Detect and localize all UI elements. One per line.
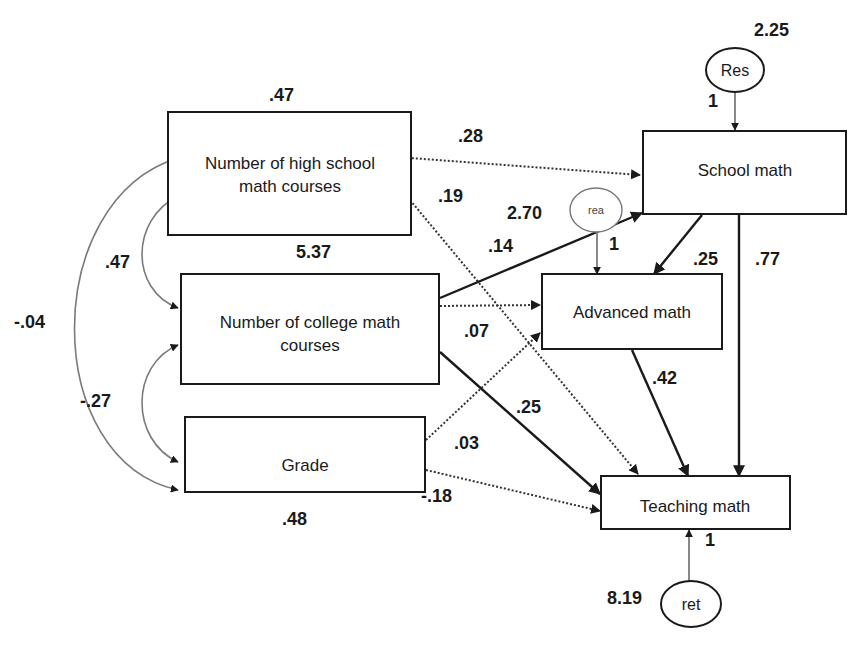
coef-college-to-advanced: .07 (464, 321, 489, 341)
coef-hs-to-teaching: .19 (438, 186, 463, 206)
coef-grade-to-advanced: .03 (454, 433, 479, 453)
hs-intercept: 5.37 (296, 242, 331, 262)
hs-variance: .47 (269, 85, 294, 105)
coef-college-to-school: .14 (488, 236, 513, 256)
res-variance: 2.25 (754, 20, 789, 40)
advanced-math-label: Advanced math (573, 303, 691, 322)
path-diagram: Number of high school math courses Numbe… (0, 0, 859, 650)
hs-courses-label-1: Number of high school (205, 154, 375, 173)
box-hs-courses: Number of high school math courses (168, 112, 411, 235)
college-courses-label-1: Number of college math (220, 313, 400, 332)
school-math-label: School math (698, 161, 793, 180)
path-grade-to-teaching (426, 470, 600, 511)
grade-variance: .48 (282, 509, 307, 529)
ret-label: ret (682, 596, 701, 613)
path-college-to-teaching (440, 352, 600, 494)
box-college-courses: Number of college math courses (181, 274, 439, 384)
coef-school-to-teaching: .77 (755, 249, 780, 269)
teaching-math-label: Teaching math (640, 497, 751, 516)
box-teaching-math: Teaching math (601, 476, 790, 529)
cov-college-grade-arc (142, 345, 178, 462)
coef-school-to-advanced: .25 (693, 249, 718, 269)
residual-rea: rea (570, 188, 622, 232)
ret-loading: 1 (705, 530, 715, 550)
college-courses-label-2: courses (280, 336, 340, 355)
coef-grade-to-teaching: -.18 (421, 486, 452, 506)
box-grade: Grade (185, 417, 425, 492)
path-grade-to-advanced (426, 333, 540, 440)
residual-res: Res (706, 48, 764, 92)
rea-loading: 1 (609, 234, 619, 254)
grade-label: Grade (281, 456, 328, 475)
coef-advanced-to-teaching: .42 (652, 368, 677, 388)
coef-college-to-teaching: .25 (516, 397, 541, 417)
res-loading: 1 (708, 91, 718, 111)
cov-hs-college: .47 (105, 252, 130, 272)
box-school-math: School math (643, 131, 846, 214)
cov-hs-grade: -.04 (14, 312, 45, 332)
res-label: Res (721, 62, 749, 79)
covariance-arcs (75, 158, 179, 490)
residual-ret: ret (661, 581, 721, 627)
path-college-to-advanced (440, 305, 540, 306)
rea-label: rea (588, 204, 605, 216)
box-advanced-math: Advanced math (542, 274, 722, 349)
cov-college-grade: -.27 (80, 391, 111, 411)
coef-hs-to-school: .28 (458, 126, 483, 146)
rea-variance: 2.70 (507, 203, 542, 223)
ret-variance: 8.19 (607, 588, 642, 608)
hs-courses-label-2: math courses (239, 177, 341, 196)
